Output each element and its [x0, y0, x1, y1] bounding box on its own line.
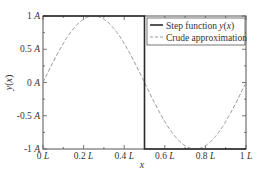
x-tick-label: 0.6 L	[155, 151, 175, 161]
y-tick-label: 1 A	[27, 11, 40, 21]
x-tick-label: 0.2 L	[74, 151, 94, 161]
legend-label-approx: Crude approximation	[166, 33, 247, 43]
y-tick-label: -0.5 A	[17, 111, 40, 121]
legend: Step function y(x) Crude approximation	[147, 18, 247, 45]
chart: 0 L0.2 L0.4 L0.6 L0.8 L1 L -1 A-0.5 A0 A…	[0, 0, 270, 176]
legend-label-step: Step function y(x)	[166, 21, 234, 32]
y-tick-label: -1 A	[24, 144, 40, 154]
x-tick-label: 0.8 L	[196, 151, 216, 161]
y-tick-label: 0 A	[27, 78, 40, 88]
y-tick-label: 0.5 A	[20, 44, 40, 54]
x-axis-label: x	[139, 159, 145, 170]
x-tick-label: 0.4 L	[114, 151, 134, 161]
x-tick-label: 1 L	[240, 151, 252, 161]
x-tick-labels: 0 L0.2 L0.4 L0.6 L0.8 L1 L	[37, 151, 252, 161]
y-tick-labels: -1 A-0.5 A0 A0.5 A1 A	[17, 11, 40, 154]
y-axis-label: y(x)	[3, 75, 15, 92]
